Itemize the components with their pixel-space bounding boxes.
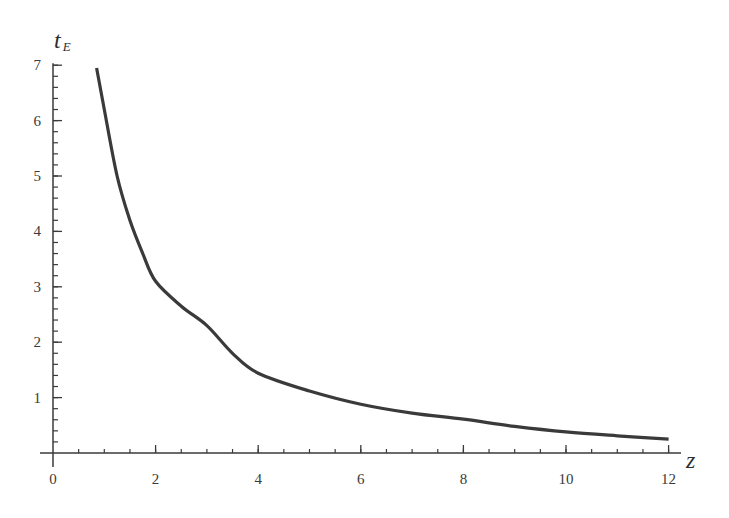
x-tick-label: 6 — [357, 471, 365, 487]
tick-labels: 0246810121234567 — [34, 57, 677, 487]
curve-t-e — [97, 68, 669, 439]
y-tick-label: 1 — [34, 390, 42, 406]
y-tick-label: 7 — [34, 57, 42, 73]
x-tick-label: 12 — [661, 471, 676, 487]
x-tick-label: 10 — [559, 471, 574, 487]
y-tick-label: 5 — [34, 168, 42, 184]
line-chart: 0246810121234567 tE z — [0, 0, 729, 518]
y-axis-label: tE — [54, 27, 71, 54]
x-tick-label: 4 — [254, 471, 262, 487]
y-tick-label: 3 — [34, 279, 42, 295]
y-tick-label: 2 — [34, 334, 42, 350]
x-tick-label: 2 — [152, 471, 160, 487]
y-tick-label: 6 — [34, 113, 42, 129]
x-tick-label: 8 — [460, 471, 468, 487]
y-tick-label: 4 — [34, 223, 42, 239]
x-axis-label: z — [685, 447, 696, 473]
x-tick-label: 0 — [49, 471, 57, 487]
